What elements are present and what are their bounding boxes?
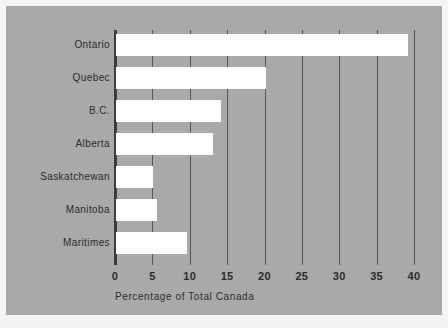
x-tick-label-35: 35 bbox=[362, 270, 392, 282]
gridline-30 bbox=[339, 30, 340, 265]
gridline-35 bbox=[377, 30, 378, 265]
gridline-15 bbox=[227, 30, 228, 265]
x-tick-label-40: 40 bbox=[399, 270, 429, 282]
chart-figure-panel: OntarioQuebecB.C.AlbertaSaskatchewanMani… bbox=[6, 6, 442, 315]
category-label-maritimes: Maritimes bbox=[6, 237, 110, 249]
x-tick-label-15: 15 bbox=[212, 270, 242, 282]
x-tick-label-10: 10 bbox=[175, 270, 205, 282]
chart-screenshot: OntarioQuebecB.C.AlbertaSaskatchewanMani… bbox=[0, 0, 448, 328]
category-label-ontario: Ontario bbox=[6, 39, 110, 51]
x-tick-label-5: 5 bbox=[137, 270, 167, 282]
x-tick-label-30: 30 bbox=[324, 270, 354, 282]
plot-area: OntarioQuebecB.C.AlbertaSaskatchewanMani… bbox=[6, 6, 442, 315]
category-label-quebec: Quebec bbox=[6, 72, 110, 84]
category-label-b-c: B.C. bbox=[6, 105, 110, 117]
x-tick-label-25: 25 bbox=[287, 270, 317, 282]
category-label-saskatchewan: Saskatchewan bbox=[6, 171, 110, 183]
x-tick-label-20: 20 bbox=[250, 270, 280, 282]
gridline-20 bbox=[265, 30, 266, 265]
category-label-manitoba: Manitoba bbox=[6, 204, 110, 216]
bar-ontario bbox=[116, 34, 408, 56]
x-axis-title: Percentage of Total Canada bbox=[115, 291, 254, 302]
bar-b-c bbox=[116, 100, 221, 122]
bar-manitoba bbox=[116, 199, 157, 221]
category-label-alberta: Alberta bbox=[6, 138, 110, 150]
gridline-40 bbox=[414, 30, 415, 265]
bar-maritimes bbox=[116, 232, 187, 254]
bar-quebec bbox=[116, 67, 266, 89]
bar-saskatchewan bbox=[116, 166, 153, 188]
gridline-25 bbox=[302, 30, 303, 265]
bar-alberta bbox=[116, 133, 213, 155]
x-tick-label-0: 0 bbox=[100, 270, 130, 282]
